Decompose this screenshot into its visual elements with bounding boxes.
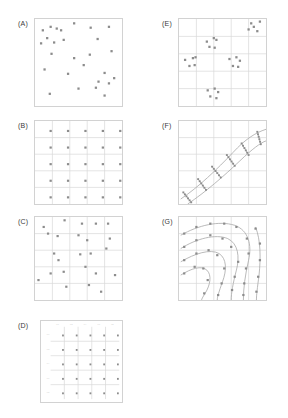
panel-a-plot bbox=[34, 18, 123, 107]
svg-text:0.0: 0.0 bbox=[56, 323, 58, 325]
panel-a: (A) bbox=[0, 0, 144, 118]
svg-text:0.0: 0.0 bbox=[47, 333, 49, 335]
panel-c: (C) bbox=[0, 212, 144, 308]
panel-b-plot bbox=[34, 120, 123, 205]
svg-text:0.4: 0.4 bbox=[47, 362, 49, 364]
panel-d-label: (D) bbox=[18, 322, 28, 329]
panel-c-label: (C) bbox=[18, 218, 28, 225]
panel-b: (B) bbox=[0, 118, 144, 214]
svg-text:0.2: 0.2 bbox=[47, 348, 49, 350]
svg-text:0.8: 0.8 bbox=[111, 323, 113, 325]
panel-e-plot bbox=[178, 18, 267, 107]
svg-text:0.6: 0.6 bbox=[97, 323, 99, 325]
panel-d-plot: 0.00.20.40.60.80.00.20.40.60.8 bbox=[40, 320, 123, 403]
panel-c-plot bbox=[34, 216, 123, 301]
svg-text:0.4: 0.4 bbox=[84, 323, 86, 325]
sampling-designs-figure: (A) (B) (C) (D) 0.00.20.40.60.80.00.20.4… bbox=[0, 0, 288, 418]
panel-g: (G) bbox=[144, 212, 288, 308]
panel-b-label: (B) bbox=[18, 122, 28, 129]
panel-a-label: (A) bbox=[18, 20, 28, 27]
panel-g-label: (G) bbox=[162, 218, 173, 225]
panel-g-plot bbox=[178, 216, 267, 301]
svg-text:0.2: 0.2 bbox=[70, 323, 72, 325]
panel-e: (E) bbox=[144, 0, 288, 118]
panel-e-label: (E) bbox=[162, 20, 172, 27]
panel-f-label: (F) bbox=[162, 122, 172, 129]
panel-d: (D) 0.00.20.40.60.80.00.20.40.60.8 bbox=[0, 308, 144, 418]
svg-text:0.8: 0.8 bbox=[47, 391, 49, 393]
panel-f: (F) bbox=[144, 118, 288, 214]
svg-text:0.6: 0.6 bbox=[47, 377, 49, 379]
panel-f-plot bbox=[178, 120, 267, 205]
